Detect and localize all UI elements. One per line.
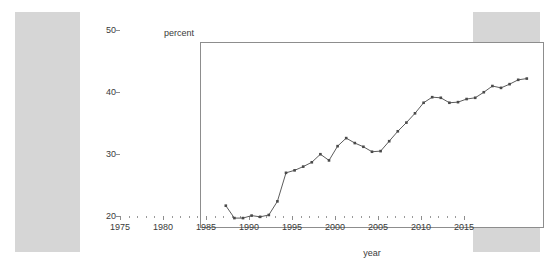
x-minor-tick-mark xyxy=(172,216,173,218)
data-point-marker xyxy=(474,97,477,100)
data-point-marker xyxy=(319,153,322,156)
x-tick-mark xyxy=(163,216,164,220)
x-minor-tick-mark xyxy=(189,216,190,218)
x-tick-label: 1980 xyxy=(143,223,183,232)
y-tick-mark xyxy=(116,154,120,155)
data-point-marker xyxy=(500,87,503,90)
y-tick-mark xyxy=(116,30,120,31)
x-minor-tick-mark xyxy=(154,216,155,218)
data-point-marker xyxy=(397,130,400,133)
x-minor-tick-mark xyxy=(137,216,138,218)
data-point-marker xyxy=(517,79,520,82)
data-point-marker xyxy=(250,214,253,217)
data-point-marker xyxy=(276,200,279,203)
data-point-marker xyxy=(440,97,443,100)
data-point-marker xyxy=(405,121,408,124)
data-point-marker xyxy=(414,112,417,115)
data-point-marker xyxy=(225,204,228,207)
chart-figure: percent 20304050 19751980198519901995200… xyxy=(0,0,556,275)
data-point-marker xyxy=(233,217,236,220)
data-point-marker xyxy=(268,214,271,217)
data-point-marker xyxy=(371,150,374,153)
data-point-marker xyxy=(448,101,451,104)
data-point-marker xyxy=(242,217,245,220)
data-point-marker xyxy=(302,165,305,168)
data-point-marker xyxy=(328,159,331,162)
x-axis-title: year xyxy=(200,248,544,258)
y-tick-label: 40 xyxy=(90,88,116,97)
data-point-marker xyxy=(259,216,262,219)
data-point-marker xyxy=(388,140,391,143)
y-tick-label: 50 xyxy=(90,26,116,35)
series-markers-percent xyxy=(225,77,529,219)
data-point-marker xyxy=(354,142,357,145)
chart-card: percent 20304050 19751980198519901995200… xyxy=(80,12,473,259)
data-point-marker xyxy=(526,77,529,80)
data-point-marker xyxy=(457,101,460,104)
data-point-marker xyxy=(336,145,339,148)
data-point-marker xyxy=(285,172,288,175)
data-series-layer xyxy=(200,42,544,228)
x-minor-tick-mark xyxy=(129,216,130,218)
data-point-marker xyxy=(508,83,511,86)
y-axis-title: percent xyxy=(164,28,194,38)
x-minor-tick-mark xyxy=(180,216,181,218)
data-point-marker xyxy=(491,85,494,88)
x-tick-label: 1975 xyxy=(100,223,140,232)
y-tick-mark xyxy=(116,92,120,93)
y-tick-label: 30 xyxy=(90,150,116,159)
series-line-percent xyxy=(226,79,527,219)
data-point-marker xyxy=(465,98,468,101)
x-minor-tick-mark xyxy=(146,216,147,218)
x-tick-mark xyxy=(120,216,121,220)
data-point-marker xyxy=(362,145,365,148)
data-point-marker xyxy=(293,169,296,172)
data-point-marker xyxy=(311,161,314,164)
x-minor-tick-mark xyxy=(197,216,198,218)
data-point-marker xyxy=(431,96,434,99)
y-tick-label: 20 xyxy=(90,212,116,221)
data-point-marker xyxy=(483,91,486,94)
data-point-marker xyxy=(345,137,348,140)
data-point-marker xyxy=(422,101,425,104)
data-point-marker xyxy=(379,150,382,153)
